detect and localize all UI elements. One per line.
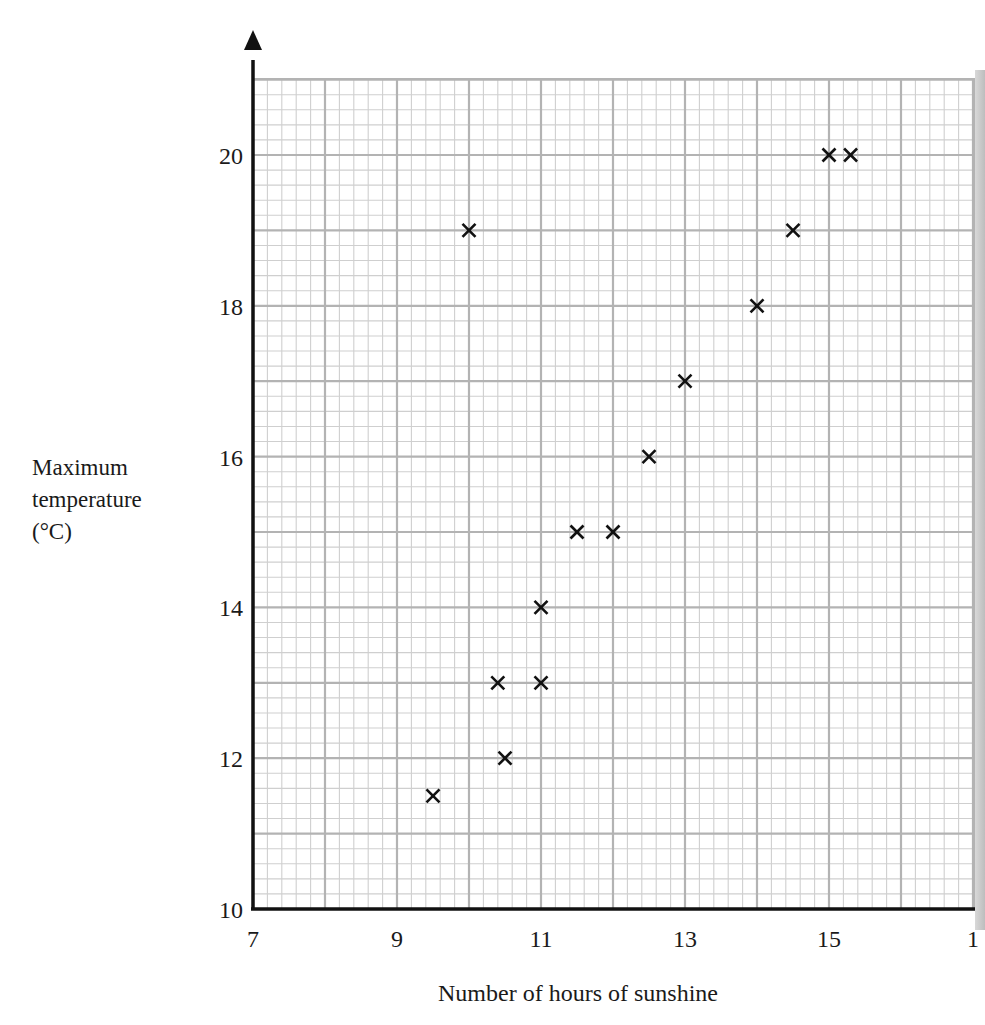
x-tick-labels: 791113151 [247, 926, 979, 952]
y-axis-arrow-icon [244, 30, 262, 50]
x-tick-label: 11 [529, 926, 552, 952]
x-tick-label: 15 [817, 926, 841, 952]
y-tick-labels: 101214161820 [219, 143, 243, 923]
y-tick-label: 20 [219, 143, 243, 169]
x-tick-label: 9 [391, 926, 403, 952]
x-axis-label: Number of hours of sunshine [438, 980, 718, 1007]
y-axis-label-line-2: temperature [32, 484, 142, 516]
y-axis-label-line-3: (°C) [32, 516, 142, 548]
y-tick-label: 18 [219, 294, 243, 320]
y-tick-label: 12 [219, 746, 243, 772]
y-tick-label: 16 [219, 445, 243, 471]
y-tick-label: 14 [219, 595, 243, 621]
y-axis-label: Maximum temperature (°C) [32, 452, 142, 548]
grid-major [253, 79, 975, 909]
y-axis-label-line-1: Maximum [32, 452, 142, 484]
x-marker-icon [427, 789, 440, 802]
y-tick-label: 10 [219, 897, 243, 923]
x-tick-label: 7 [247, 926, 259, 952]
scatter-chart: 101214161820 791113151 [0, 0, 985, 1025]
page-edge-shadow [975, 70, 985, 930]
x-tick-label: 13 [673, 926, 697, 952]
